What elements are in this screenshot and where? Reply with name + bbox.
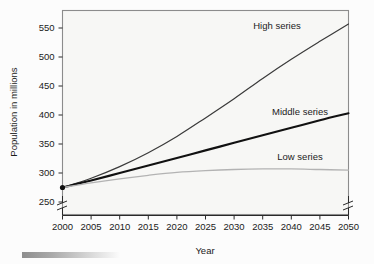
y-tick-label: 350: [39, 138, 55, 149]
y-tick-label: 550: [39, 22, 55, 33]
x-tick-label: 2015: [138, 221, 159, 232]
y-tick-label: 400: [39, 109, 55, 120]
x-tick-label: 2050: [338, 221, 359, 232]
x-axis-title: Year: [195, 245, 214, 256]
y-tick-label: 500: [39, 51, 55, 62]
origin-marker: [60, 185, 65, 190]
x-tick-label: 2025: [195, 221, 216, 232]
x-tick-label: 2005: [81, 221, 102, 232]
chart-canvas: 250300350400450500550 200020052010201520…: [0, 0, 374, 264]
series-label-low: Low series: [277, 151, 323, 162]
population-projection-chart: 250300350400450500550 200020052010201520…: [0, 0, 374, 264]
y-tick-label: 450: [39, 80, 55, 91]
series-label-high: High series: [253, 20, 301, 31]
y-tick-label: 250: [39, 196, 55, 207]
x-tick-label: 2020: [166, 221, 187, 232]
x-tick-label: 2010: [109, 221, 130, 232]
x-tick-label: 2035: [252, 221, 273, 232]
scrollbar-artifact[interactable]: [22, 252, 120, 258]
x-axis-ticks: 2000200520102015202020252030203520402045…: [52, 216, 359, 232]
y-tick-label: 300: [39, 167, 55, 178]
y-axis-title: Population in millions: [8, 67, 19, 156]
x-tick-label: 2000: [52, 221, 73, 232]
series-label-middle: Middle series: [272, 106, 328, 117]
x-tick-label: 2040: [281, 221, 302, 232]
y-axis-ticks: 250300350400450500550: [39, 22, 63, 207]
x-tick-label: 2045: [309, 221, 330, 232]
x-tick-label: 2030: [224, 221, 245, 232]
